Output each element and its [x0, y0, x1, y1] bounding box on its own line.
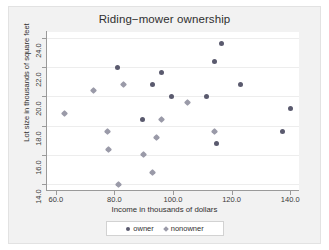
y-axis-title: Lot size in thousands of square feet: [22, 13, 31, 153]
data-point-owner: [140, 117, 145, 122]
gridline: [47, 38, 299, 39]
gridline: [47, 126, 299, 127]
data-point-owner: [238, 82, 243, 87]
data-point-owner: [169, 94, 174, 99]
y-tick-label: 22.0: [34, 67, 43, 93]
nonowner-marker-icon: [163, 226, 169, 232]
data-point-nonowner: [104, 128, 111, 135]
data-point-owner: [212, 59, 217, 64]
y-tick-label: 20.0: [34, 96, 43, 122]
legend-label-nonowner: nonowner: [171, 224, 204, 233]
chart-title: Riding−mower ownership: [0, 13, 329, 25]
data-point-nonowner: [120, 81, 127, 88]
y-tick-label: 24.0: [34, 37, 43, 63]
y-tick-mark: [42, 67, 46, 68]
data-point-owner: [288, 106, 293, 111]
y-tick-mark: [42, 126, 46, 127]
gridline: [47, 184, 299, 185]
y-axis-line: [46, 31, 47, 191]
data-point-nonowner: [105, 145, 112, 152]
legend-entry-owner[interactable]: owner: [126, 224, 153, 233]
y-tick-mark: [42, 155, 46, 156]
x-axis-title: Income in thousands of dollars: [0, 205, 329, 214]
x-tick-label: 80.0: [97, 195, 131, 204]
y-tick-mark: [42, 96, 46, 97]
legend-label-owner: owner: [133, 224, 153, 233]
data-point-nonowner: [210, 128, 217, 135]
x-tick-label: 100.0: [156, 195, 190, 204]
x-tick-label: 140.0: [273, 195, 307, 204]
y-tick-mark: [42, 38, 46, 39]
data-point-owner: [204, 94, 209, 99]
data-point-nonowner: [149, 169, 156, 176]
data-point-nonowner: [184, 99, 191, 106]
x-tick-label: 120.0: [215, 195, 249, 204]
data-point-nonowner: [158, 116, 165, 123]
data-point-owner: [219, 41, 224, 46]
x-tick-label: 60.0: [39, 195, 73, 204]
data-point-nonowner: [90, 87, 97, 94]
legend-entry-nonowner[interactable]: nonowner: [164, 224, 204, 233]
y-tick-mark: [42, 184, 46, 185]
data-point-nonowner: [115, 181, 122, 188]
data-point-nonowner: [140, 151, 147, 158]
y-tick-label: 18.0: [34, 125, 43, 151]
y-tick-label: 16.0: [34, 154, 43, 180]
data-point-owner: [115, 65, 120, 70]
gridline: [47, 67, 299, 68]
chart-screenshot: Riding−mower ownership 14.016.018.020.02…: [0, 0, 329, 250]
gridline: [47, 155, 299, 156]
data-point-owner: [214, 141, 219, 146]
owner-marker-icon: [126, 227, 130, 231]
data-point-nonowner: [153, 134, 160, 141]
data-point-nonowner: [61, 110, 68, 117]
chart-legend: owner nonowner: [106, 221, 224, 236]
data-point-owner: [280, 129, 285, 134]
plot-area: [47, 32, 299, 190]
data-point-owner: [159, 70, 164, 75]
data-point-owner: [150, 82, 155, 87]
